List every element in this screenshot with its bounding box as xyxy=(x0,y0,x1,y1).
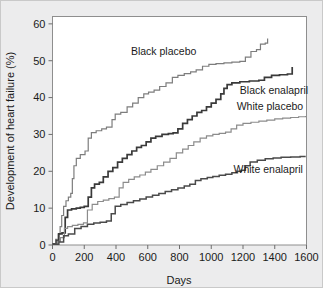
chart-figure: 0102030405060 02004006008001000120014001… xyxy=(0,0,323,288)
x-tick-label: 1400 xyxy=(263,251,287,263)
y-axis-title: Development of heart failure (%) xyxy=(4,52,16,210)
y-tick-label: 40 xyxy=(33,91,45,103)
series-label-black-placebo: Black placebo xyxy=(131,45,197,57)
y-tick-label: 50 xyxy=(33,55,45,67)
y-tick-label: 10 xyxy=(33,202,45,214)
y-tick-label: 60 xyxy=(33,18,45,30)
x-tick-label: 1600 xyxy=(294,251,318,263)
x-tick-label: 600 xyxy=(139,251,157,263)
series-label-black-enalapril: Black enalapril xyxy=(240,84,308,96)
x-tick-label: 200 xyxy=(75,251,93,263)
y-tick-label: 0 xyxy=(39,239,45,251)
x-tick-label: 0 xyxy=(49,251,55,263)
x-tick-label: 1000 xyxy=(199,251,223,263)
x-axis-title: Days xyxy=(166,274,192,286)
x-tick-label: 800 xyxy=(170,251,188,263)
x-tick-label: 1200 xyxy=(231,251,255,263)
series-label-white-enalapril: White enalapril xyxy=(233,163,302,175)
y-tick-label: 20 xyxy=(33,165,45,177)
cumulative-incidence-chart: 0102030405060 02004006008001000120014001… xyxy=(1,1,323,288)
y-tick-label: 30 xyxy=(33,128,45,140)
x-tick-label: 400 xyxy=(107,251,125,263)
series-label-white-placebo: White placebo xyxy=(237,100,304,112)
